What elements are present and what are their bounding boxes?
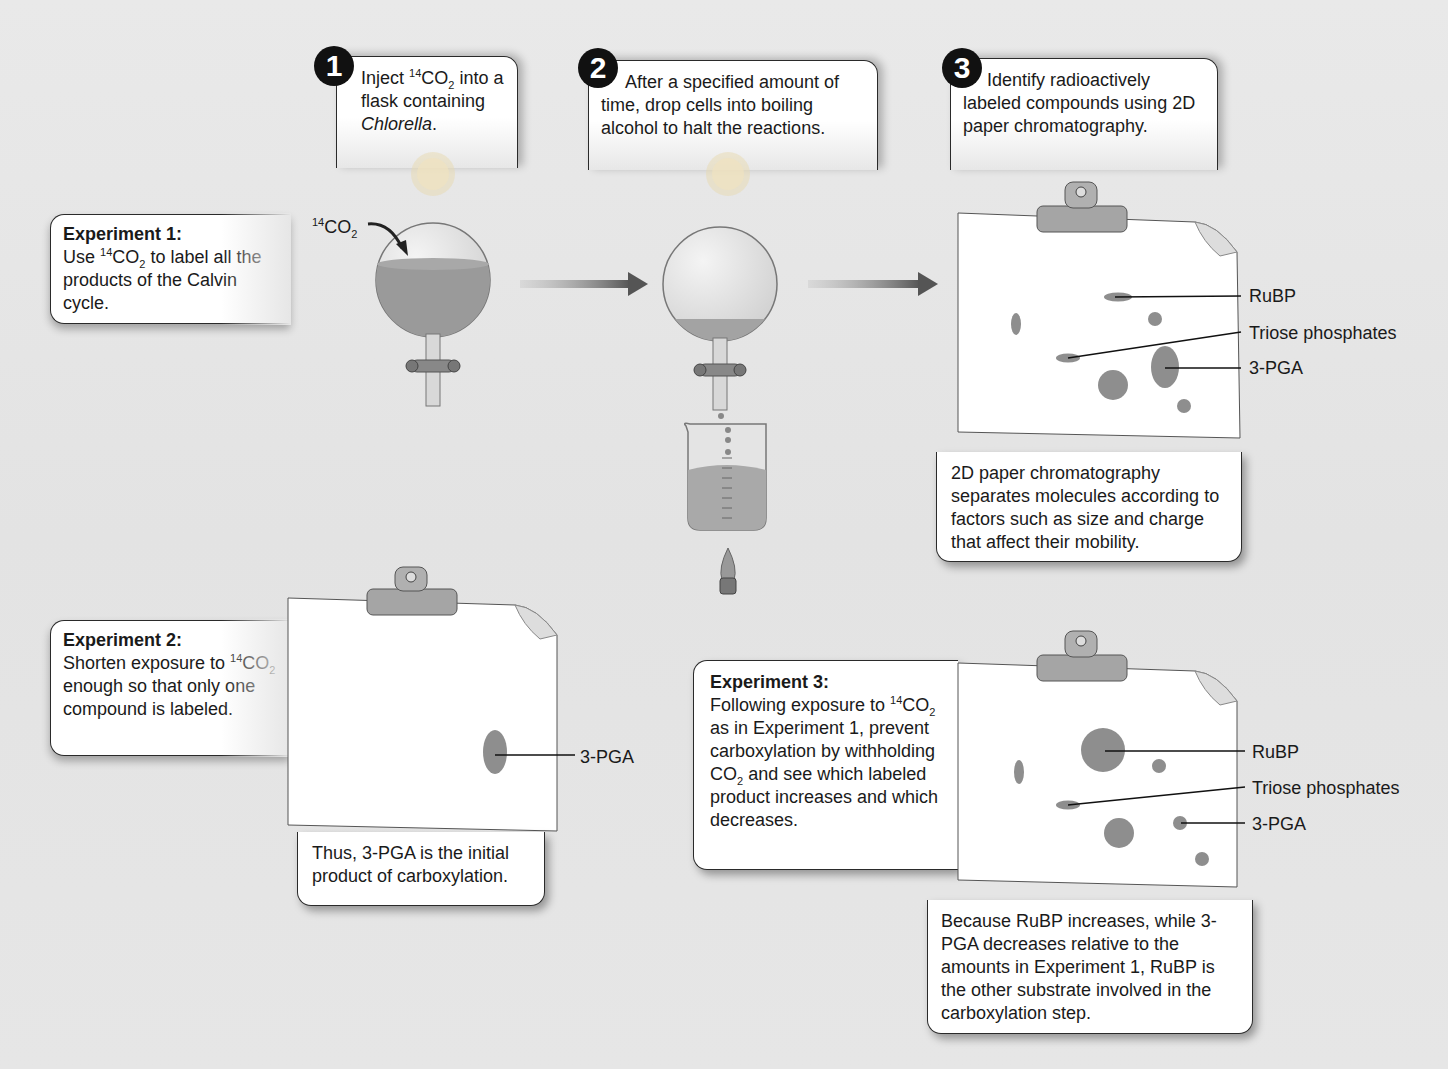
experiment-1-title: Experiment 1: xyxy=(63,224,182,244)
exp2-conclusion-note: Thus, 3-PGA is the initial product of ca… xyxy=(297,832,545,906)
experiment-1-box: Experiment 1: Use 14CO2 to label all the… xyxy=(50,214,290,324)
chromatogram-paper-2 xyxy=(285,565,665,835)
sun-icon xyxy=(395,140,475,210)
label-3pga-2: 3-PGA xyxy=(580,746,634,768)
exp3-conclusion-note: Because RuBP increases, while 3-PGA decr… xyxy=(927,900,1253,1034)
label-triose-3: Triose phosphates xyxy=(1252,777,1399,799)
chromatography-note: 2D paper chromatography separates molecu… xyxy=(936,452,1242,562)
co2-label: 14CO2 xyxy=(312,216,357,238)
arrow-right-icon xyxy=(808,272,940,296)
experiment-3-box: Experiment 3: Following exposure to 14CO… xyxy=(693,660,958,870)
step-1-number: 1 xyxy=(314,46,354,86)
label-rubp-3: RuBP xyxy=(1252,741,1299,763)
label-3pga-1: 3-PGA xyxy=(1249,357,1303,379)
arrow-right-icon xyxy=(520,272,650,296)
label-rubp-1: RuBP xyxy=(1249,285,1296,307)
experiment-2-box: Experiment 2: Shorten exposure to 14CO2 … xyxy=(50,620,290,756)
experiment-3-title: Experiment 3: xyxy=(710,672,829,692)
beaker-icon xyxy=(680,418,780,608)
step-3-box: Identify radioactively labeled compounds… xyxy=(950,58,1218,170)
label-triose-1: Triose phosphates xyxy=(1249,322,1396,344)
step-3-number: 3 xyxy=(942,48,982,88)
experiment-2-title: Experiment 2: xyxy=(63,630,182,650)
chromatogram-paper-3 xyxy=(955,625,1435,895)
step-2-number: 2 xyxy=(578,48,618,88)
flask-icon xyxy=(360,220,510,420)
sun-icon xyxy=(690,140,770,210)
label-3pga-3: 3-PGA xyxy=(1252,813,1306,835)
chromatogram-paper-1 xyxy=(955,180,1435,450)
flask-icon xyxy=(658,224,808,424)
